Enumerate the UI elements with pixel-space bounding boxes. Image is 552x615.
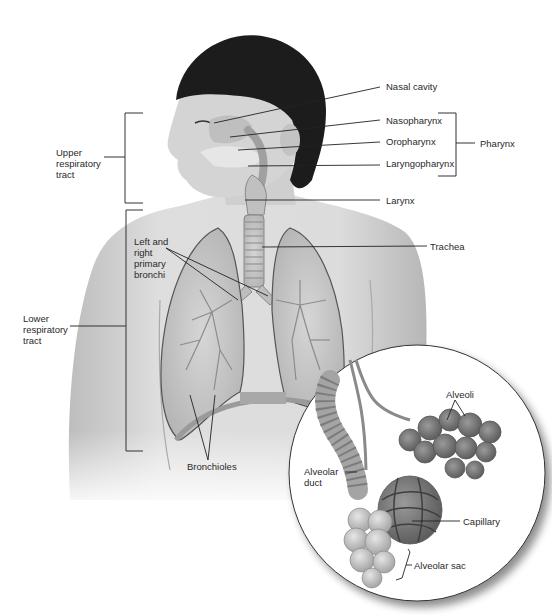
label-alveolar-duct: Alveolar duct [304, 466, 338, 488]
label-laryngopharynx: Laryngopharynx [386, 158, 454, 169]
label-oropharynx: Oropharynx [386, 136, 436, 147]
label-alveolar-sac: Alveolar sac [414, 560, 466, 571]
label-lower-respiratory-tract: Lower respiratory tract [23, 313, 68, 346]
label-nasal-cavity: Nasal cavity [386, 81, 437, 92]
respiratory-diagram: Upper respiratory tract Lower respirator… [0, 0, 552, 615]
bracket-upper [104, 113, 143, 203]
label-upper-respiratory-tract: Upper respiratory tract [56, 147, 101, 180]
label-nasopharynx: Nasopharynx [386, 115, 442, 126]
label-alveoli: Alveoli [446, 389, 474, 400]
label-trachea: Trachea [430, 241, 465, 252]
label-primary-bronchi: Left and right primary bronchi [134, 236, 168, 280]
label-larynx: Larynx [386, 195, 415, 206]
label-capillary: Capillary [463, 516, 500, 527]
label-pharynx: Pharynx [480, 138, 515, 149]
label-bronchioles: Bronchioles [187, 461, 237, 472]
